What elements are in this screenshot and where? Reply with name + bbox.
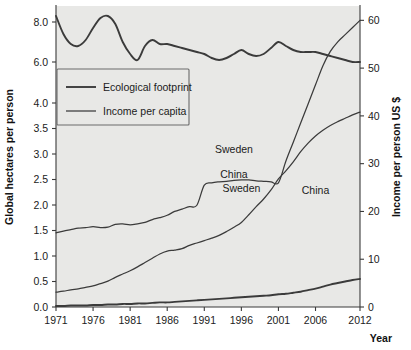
right-tick-label: 10 — [368, 253, 380, 265]
bottom-tick-label: 1991 — [193, 314, 217, 326]
bottom-tick-label: 2012 — [348, 314, 372, 326]
right-tick-label: 30 — [368, 157, 380, 169]
left-tick-label: 2.5 — [33, 173, 48, 185]
chart-figure: 0.00.51.01.52.02.53.03.54.06.08.0 010203… — [0, 0, 411, 350]
right-tick-label: 0 — [368, 301, 374, 313]
left-tick-label: 6.0 — [33, 56, 48, 68]
bottom-tick-label: 1996 — [230, 314, 254, 326]
right-tick-label: 50 — [368, 62, 380, 74]
series-annotation-china: China — [302, 184, 330, 196]
series-annotation-sweden: Sweden — [215, 143, 253, 155]
chart-legend: Ecological footprint Income per capita — [57, 69, 192, 125]
left-tick-label: 3.0 — [33, 148, 48, 160]
bottom-tick-label: 2006 — [304, 314, 328, 326]
left-tick-label: 1.0 — [33, 250, 48, 262]
bottom-axis-ticks: 197119761981198619911996200120062012 — [44, 307, 372, 326]
left-tick-label: 8.0 — [33, 16, 48, 28]
bottom-tick-label: 1971 — [44, 314, 68, 326]
bottom-tick-label: 1986 — [156, 314, 180, 326]
right-tick-label: 20 — [368, 205, 380, 217]
right-tick-label: 40 — [368, 110, 380, 122]
bottom-tick-label: 1981 — [118, 314, 142, 326]
bottom-axis-title: Year — [370, 332, 392, 344]
left-tick-label: 4.0 — [33, 97, 48, 109]
bottom-tick-label: 1976 — [81, 314, 105, 326]
legend-label-income-per-capita: Income per capita — [103, 105, 187, 117]
series-annotation-china: China — [220, 168, 248, 180]
left-axis-title: Global hectares per person — [3, 89, 15, 225]
left-tick-label: 1.5 — [33, 224, 48, 236]
series-annotation-sweden: Sweden — [222, 182, 260, 194]
right-axis-title: Income per person US $ — [390, 97, 402, 217]
left-tick-label: 2.0 — [33, 199, 48, 211]
left-tick-label: 0.0 — [33, 301, 48, 313]
left-axis-ticks: 0.00.51.01.52.02.53.03.54.06.08.0 — [33, 16, 56, 313]
right-axis-ticks: 0102030405060 — [360, 14, 380, 313]
bottom-tick-label: 2001 — [267, 314, 291, 326]
right-tick-label: 60 — [368, 14, 380, 26]
left-tick-label: 0.5 — [33, 275, 48, 287]
left-tick-label: 3.5 — [33, 122, 48, 134]
legend-label-ecological-footprint: Ecological footprint — [103, 81, 192, 93]
dual-axis-line-chart: 0.00.51.01.52.02.53.03.54.06.08.0 010203… — [0, 0, 411, 350]
